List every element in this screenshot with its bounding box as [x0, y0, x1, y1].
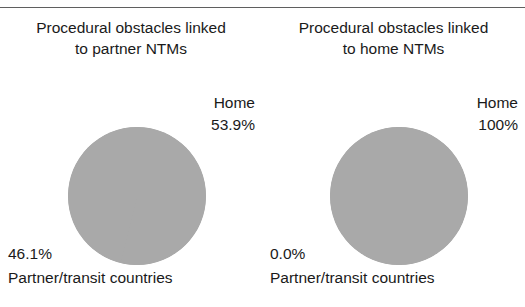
panel-title-home-line1: Procedural obstacles linked [262, 17, 525, 38]
pie-panel-home-ntms: Procedural obstacles linked to home NTMs… [262, 7, 525, 307]
panel-title-partner-line2: to partner NTMs [0, 38, 262, 59]
label-partner-countries-home: Partner/transit countries [270, 268, 435, 288]
label-home-partner: Home [214, 93, 255, 113]
pie-chart-home [330, 127, 468, 265]
panel-title-home-line2: to home NTMs [262, 38, 525, 59]
clipped-header-row [0, 0, 525, 7]
pie-panel-partner-ntms: Procedural obstacles linked to partner N… [0, 7, 262, 307]
figure-container: Procedural obstacles linked to partner N… [0, 0, 525, 307]
value-partner-countries-partner: 46.1% [8, 244, 52, 264]
value-home-home: 100% [478, 115, 518, 135]
panel-title-partner-line1: Procedural obstacles linked [0, 17, 262, 38]
panel-title-partner: Procedural obstacles linked to partner N… [0, 17, 262, 59]
label-home-home: Home [477, 93, 518, 113]
value-partner-countries-home: 0.0% [270, 244, 305, 264]
value-home-partner: 53.9% [211, 115, 255, 135]
pie-chart-partner [68, 127, 206, 265]
pie-slice-home-home [330, 127, 468, 265]
panel-title-home: Procedural obstacles linked to home NTMs [262, 17, 525, 59]
label-partner-countries-partner: Partner/transit countries [8, 268, 173, 288]
pie-chart-partner-svg [68, 127, 206, 265]
pie-chart-home-svg [330, 127, 468, 265]
